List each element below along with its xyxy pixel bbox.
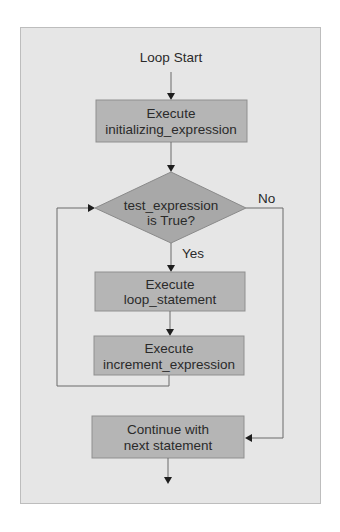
node-incr: Execute increment_expression [94, 336, 244, 375]
node-incr-line-1: Execute [145, 341, 194, 356]
arrowhead-icon [166, 329, 174, 336]
node-test: test_expression is True? [95, 172, 246, 243]
node-next: Continue with next statement [92, 416, 244, 458]
arrowhead-icon [164, 477, 172, 484]
node-init-line-1: Execute [147, 106, 196, 121]
arrowhead-icon [167, 165, 175, 172]
edge-start-to-init [167, 72, 175, 100]
yes-label: Yes [182, 246, 204, 261]
arrowhead-icon [167, 93, 175, 100]
arrowhead-icon [88, 204, 95, 212]
loop-start-label: Loop Start [140, 50, 203, 65]
node-incr-line-2: increment_expression [103, 357, 235, 372]
node-init: Execute initializing_expression [96, 100, 247, 142]
edge-init-to-test [167, 142, 175, 172]
edge-test-to-body-yes: Yes [167, 243, 204, 272]
node-next-line-1: Continue with [127, 422, 209, 437]
node-test-line-1: test_expression [124, 198, 219, 213]
edge-test-to-next-no: No [245, 191, 283, 442]
arrowhead-icon [167, 265, 175, 272]
node-next-line-2: next statement [124, 438, 213, 453]
arrowhead-icon [245, 434, 252, 442]
node-body-line-2: loop_statement [124, 292, 217, 307]
node-test-line-2: is True? [147, 213, 195, 228]
node-body: Execute loop_statement [95, 272, 245, 311]
node-body-line-1: Execute [146, 277, 195, 292]
edge-body-to-incr [166, 311, 174, 336]
no-label: No [258, 191, 275, 206]
node-init-line-2: initializing_expression [105, 122, 236, 137]
flowchart: Loop Start Execute initializing_expressi… [0, 0, 340, 532]
edge-next-to-end [164, 458, 172, 484]
